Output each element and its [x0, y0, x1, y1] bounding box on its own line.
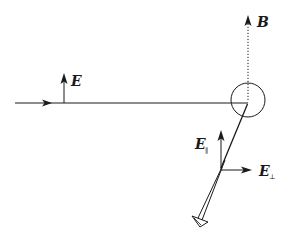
- E-perpendicular-vector: E ⊥: [221, 163, 276, 181]
- incident-E-label: E: [70, 73, 82, 89]
- scattered-beam-open-arrowhead-icon: [192, 216, 208, 227]
- E-perpendicular-subscript: ⊥: [269, 173, 276, 181]
- B-label: B: [256, 14, 269, 30]
- incident-beam: [15, 100, 248, 107]
- incident-E-vector: E: [61, 73, 83, 103]
- B-vector: B: [245, 14, 270, 100]
- scattering-diagram: E B E ∥ E ⊥: [0, 0, 285, 237]
- E-parallel-vector: E ∥: [194, 130, 225, 170]
- scattered-beam: [192, 104, 248, 227]
- E-parallel-subscript: ∥: [205, 147, 208, 155]
